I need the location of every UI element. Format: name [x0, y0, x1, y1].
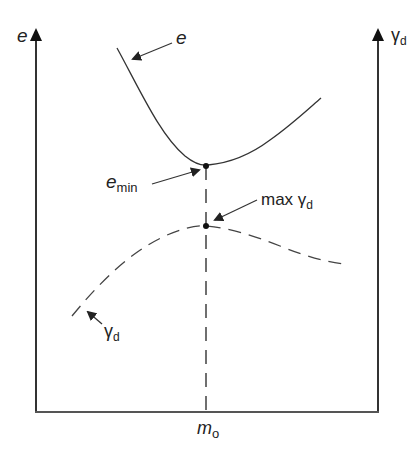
e-label-arrow-icon [133, 43, 172, 59]
max-gamma-d-point [203, 223, 209, 229]
max-prefix: max [261, 190, 298, 209]
max-gamma-subscript: d [306, 198, 313, 212]
right-axis-symbol: γ [391, 25, 400, 45]
max-gamma-d-label: max γd [261, 191, 313, 208]
right-axis [372, 28, 384, 412]
e-min-symbol: e [106, 171, 117, 192]
void-ratio-curve [117, 48, 321, 165]
left-axis-arrow-icon [30, 28, 42, 41]
dry-unit-weight-curve-label: γd [104, 322, 120, 340]
left-axis-symbol: e [17, 25, 28, 46]
dry-unit-weight-symbol: γ [104, 321, 113, 341]
e-min-subscript: min [117, 180, 138, 195]
void-ratio-curve-symbol: e [176, 27, 187, 48]
m-subscript: o [212, 426, 219, 441]
left-axis-label: e [17, 26, 28, 45]
e-min-point [203, 163, 209, 169]
e-min-label: emin [106, 172, 138, 191]
right-axis-label: γd [391, 26, 407, 44]
left-axis [30, 28, 42, 412]
m-symbol: m [197, 418, 212, 438]
compaction-diagram [0, 0, 417, 456]
right-axis-subscript: d [400, 34, 407, 48]
optimum-moisture-label: mo [197, 419, 219, 437]
max-gamma-d-arrow-icon [215, 200, 257, 220]
dry-unit-weight-curve [72, 226, 345, 316]
gamma-d-label-arrow-icon [88, 312, 102, 324]
right-axis-arrow-icon [372, 28, 384, 41]
void-ratio-curve-label: e [176, 28, 187, 47]
e-min-arrow-icon [152, 170, 199, 184]
dry-unit-weight-subscript: d [113, 330, 120, 344]
